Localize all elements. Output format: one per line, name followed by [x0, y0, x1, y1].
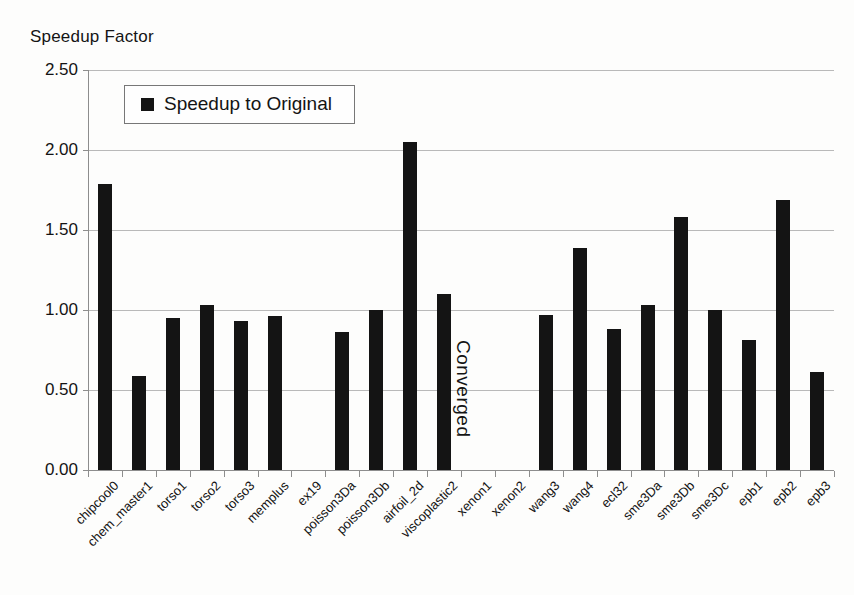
x-axis-tick-mark: [495, 471, 496, 477]
y-axis-title: Speedup Factor: [30, 27, 154, 47]
bar: [166, 318, 180, 470]
bar: [234, 321, 248, 470]
bar: [674, 217, 688, 470]
x-axis-tick-mark: [461, 471, 462, 477]
x-axis-tick-mark: [291, 471, 292, 477]
bar: [607, 329, 621, 470]
legend-label: Speedup to Original: [164, 93, 332, 115]
x-axis-tick-mark: [597, 471, 598, 477]
x-axis-tick-mark: [359, 471, 360, 477]
x-axis-tick-mark: [393, 471, 394, 477]
chart-figure: Speedup Factor 0.000.501.001.502.002.50 …: [0, 0, 854, 595]
y-axis-tick-label: 2.50: [18, 60, 78, 80]
x-axis-tick-mark: [732, 471, 733, 477]
bar: [132, 376, 146, 470]
x-axis-tick-mark: [156, 471, 157, 477]
bar: [369, 310, 383, 470]
chart-legend: Speedup to Original: [124, 85, 355, 124]
bar: [641, 305, 655, 470]
x-axis-tick-mark: [766, 471, 767, 477]
x-axis-tick-mark: [122, 471, 123, 477]
x-axis-tick-mark: [800, 471, 801, 477]
x-axis-tick-mark: [529, 471, 530, 477]
x-axis-tick-mark: [631, 471, 632, 477]
y-axis-tick-labels: 0.000.501.001.502.002.50: [10, 70, 78, 471]
bar: [437, 294, 451, 470]
y-axis-tick-label: 1.50: [18, 220, 78, 240]
x-axis-tick-mark: [258, 471, 259, 477]
bar: [403, 142, 417, 470]
x-axis-tick-mark: [224, 471, 225, 477]
bar: [335, 332, 349, 470]
bar: [200, 305, 214, 470]
converged-annotation: Converged: [452, 340, 474, 437]
bar: [573, 248, 587, 470]
x-axis-tick-mark: [190, 471, 191, 477]
bar: [776, 200, 790, 470]
x-axis-tick-mark: [325, 471, 326, 477]
bar: [810, 372, 824, 470]
x-axis-tick-mark: [698, 471, 699, 477]
y-axis-tick-label: 0.50: [18, 380, 78, 400]
y-axis-tick-label: 2.00: [18, 140, 78, 160]
y-axis-tick-label: 1.00: [18, 300, 78, 320]
bar: [742, 340, 756, 470]
x-axis-tick-mark: [834, 471, 835, 477]
x-axis-tick-mark: [563, 471, 564, 477]
bar: [268, 316, 282, 470]
x-axis-tick-mark: [88, 471, 89, 477]
bar: [708, 310, 722, 470]
bar: [98, 184, 112, 470]
x-axis-tick-mark: [664, 471, 665, 477]
x-axis-tick-mark: [427, 471, 428, 477]
legend-swatch-icon: [141, 98, 154, 111]
y-axis-tick-label: 0.00: [18, 460, 78, 480]
x-axis-category-labels: chipcool0chem_master1torso1torso2torso3m…: [88, 478, 834, 588]
bar: [539, 315, 553, 470]
